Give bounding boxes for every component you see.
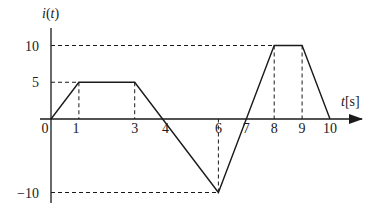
y-tick-label-2: −10: [17, 186, 39, 201]
x-tick-label-8: 8: [271, 121, 278, 136]
x-tick-label-6: 6: [215, 121, 222, 136]
x-tick-label-0: 0: [42, 121, 49, 136]
x-tick-label-4: 4: [162, 121, 169, 136]
x-axis-label: t[s]: [341, 94, 360, 109]
x-axis-label-unit: [s]: [345, 94, 360, 109]
x-tick-label-10: 10: [323, 121, 337, 136]
x-tick-label-1: 1: [73, 121, 80, 136]
y-tick-label-0: 10: [25, 39, 39, 54]
x-tick-label-3: 3: [131, 121, 138, 136]
x-tick-label-7: 7: [243, 121, 250, 136]
y-axis-label: i(t): [42, 6, 59, 22]
axes: [40, 28, 362, 203]
y-tick-label-1: 5: [32, 75, 39, 90]
current-waveform-chart: 0134678910105−10 i(t) t[s]: [0, 0, 385, 215]
x-tick-label-9: 9: [299, 121, 306, 136]
